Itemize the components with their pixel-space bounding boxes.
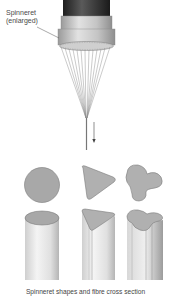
- filaments: [61, 47, 110, 150]
- round-fibre: [25, 211, 59, 280]
- spinneret-diagram: [0, 0, 171, 300]
- triangular-cross-section: [82, 166, 115, 200]
- label-pointer-line: [37, 27, 59, 38]
- spinneret-head: [58, 0, 115, 51]
- diagram-caption: Spinneret shapes and fibre cross section: [0, 288, 171, 295]
- trilobal-cross-section: [126, 165, 162, 201]
- round-cross-section: [25, 168, 60, 203]
- triangular-fibre: [82, 209, 115, 280]
- trilobal-fibre: [127, 210, 163, 280]
- downward-arrow-icon: [92, 122, 95, 143]
